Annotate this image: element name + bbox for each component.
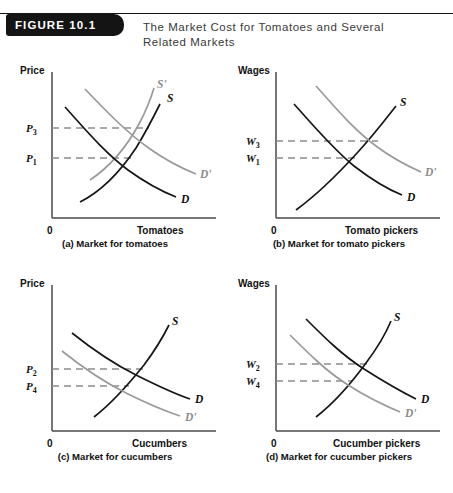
chart-panel-a: S' S D' D P3 P1 Price Tomatoes 0 (a) Mar…	[4, 62, 226, 274]
level-label-1: P3	[26, 122, 37, 137]
chart-c-caption: (c) Market for cucumbers	[4, 451, 226, 462]
curve-label-demand-shifted: D'	[424, 166, 437, 178]
chart-d-caption: (d) Market for cucumber pickers	[228, 451, 450, 462]
curve-label-supply: S	[172, 315, 178, 327]
chart-a-caption: (a) Market for tomatoes	[4, 238, 226, 249]
chart-c-svg: S D D' P2 P4 Price Cucumbers 0	[4, 275, 226, 451]
curve-demand-original	[72, 333, 190, 399]
chart-a-svg: S' S D' D P3 P1 Price Tomatoes 0	[4, 62, 226, 238]
figure-title-line1: The Market Cost for Tomatoes and Several	[143, 20, 443, 35]
chart-panel-b: S D' D W3 W1 Wages Tomato pickers 0 (b) …	[228, 62, 450, 274]
x-axis-label: Tomato pickers	[345, 225, 419, 236]
y-axis-label: Wages	[238, 65, 270, 76]
curve-label-demand-original: D	[180, 193, 190, 205]
level-label-2: W1	[246, 152, 260, 167]
curve-label-demand-original: D	[406, 191, 416, 203]
level-label-1: W2	[246, 358, 260, 373]
level-label-2: P4	[26, 380, 37, 395]
curve-label-demand-shifted: D'	[184, 411, 197, 423]
curve-label-supply-original: S	[167, 92, 173, 104]
curve-label-supply: S	[400, 96, 406, 108]
level-label-2: P1	[26, 152, 37, 167]
curve-supply	[94, 325, 169, 417]
figure-header: FIGURE 10.1 The Market Cost for Tomatoes…	[0, 0, 453, 62]
origin-label: 0	[47, 225, 53, 236]
y-axis-label: Wages	[238, 278, 270, 289]
curve-demand-shifted	[85, 89, 196, 174]
chart-b-caption: (b) Market for tomato pickers	[228, 238, 450, 249]
curve-label-demand-original: D	[420, 393, 430, 405]
curve-label-demand-original: D	[194, 393, 204, 405]
level-label-1: W3	[246, 135, 260, 150]
x-axis-label: Tomatoes	[137, 225, 184, 236]
level-label-1: P2	[26, 363, 37, 378]
figure-title-line2: Related Markets	[143, 35, 443, 50]
x-axis-label: Cucumber pickers	[333, 438, 421, 449]
y-axis-label: Price	[20, 65, 45, 76]
curve-label-demand-shifted: D'	[404, 407, 417, 419]
y-axis-label: Price	[20, 278, 45, 289]
figure-title: The Market Cost for Tomatoes and Several…	[143, 20, 443, 50]
curve-demand-shifted	[290, 335, 400, 412]
chart-panel-c: S D D' P2 P4 Price Cucumbers 0 (c) Marke…	[4, 275, 226, 487]
chart-panel-d: S D D' W2 W4 Wages Cucumber pickers 0 (d…	[228, 275, 450, 487]
figure-number-label: FIGURE 10.1	[6, 14, 124, 36]
x-axis-label: Cucumbers	[132, 438, 187, 449]
curve-label-demand-shifted: D'	[199, 168, 212, 180]
curve-label-supply-shifted: S'	[157, 78, 167, 90]
level-label-2: W4	[246, 375, 260, 390]
curve-label-supply: S	[394, 311, 400, 323]
curve-demand-original	[306, 319, 416, 399]
figure-number-tab: FIGURE 10.1	[6, 14, 124, 36]
chart-d-svg: S D D' W2 W4 Wages Cucumber pickers 0	[228, 275, 450, 451]
origin-label: 0	[271, 225, 277, 236]
origin-label: 0	[47, 438, 53, 449]
curve-demand-shifted	[62, 351, 180, 416]
chart-b-svg: S D' D W3 W1 Wages Tomato pickers 0	[228, 62, 450, 238]
origin-label: 0	[271, 438, 277, 449]
